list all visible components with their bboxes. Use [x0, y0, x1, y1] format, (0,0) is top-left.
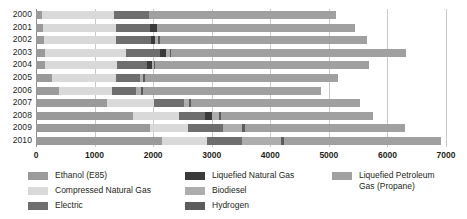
bar-segment[interactable]: [36, 124, 150, 132]
bar-segment[interactable]: [145, 74, 337, 82]
x-axis-tick-label: 3000: [202, 150, 221, 160]
legend-swatch: [28, 202, 48, 210]
bar-segment[interactable]: [52, 74, 115, 82]
x-axis-tick-label: 5000: [319, 150, 338, 160]
legend-item[interactable]: Biodiesel: [185, 185, 294, 199]
bar-segment[interactable]: [36, 99, 107, 107]
legend-item[interactable]: Compressed Natural Gas: [28, 185, 151, 199]
bar-segment[interactable]: [116, 24, 150, 32]
bar-segment[interactable]: [36, 61, 45, 69]
bar-segment[interactable]: [223, 124, 242, 132]
bar-row[interactable]: [36, 124, 405, 132]
legend-label: Liquefied Petroleum Gas (Propane): [359, 170, 435, 191]
bar-row[interactable]: [36, 99, 360, 107]
bar-segment[interactable]: [45, 49, 126, 57]
bar-segment[interactable]: [44, 36, 116, 44]
bar-segment[interactable]: [126, 49, 160, 57]
legend-swatch: [185, 202, 205, 210]
plot-area: [36, 9, 446, 147]
y-axis-tick-label: 2010: [0, 135, 32, 145]
grid-line: [446, 9, 447, 147]
bar-segment[interactable]: [45, 61, 117, 69]
bar-segment[interactable]: [133, 112, 179, 120]
chart-title: [0, 0, 467, 7]
y-axis-tick-label: 2009: [0, 122, 32, 132]
bar-segment[interactable]: [149, 11, 336, 19]
y-axis-tick-label: 2006: [0, 85, 32, 95]
legend-label: Compressed Natural Gas: [55, 185, 151, 196]
bar-segment[interactable]: [117, 61, 146, 69]
bar-row[interactable]: [36, 49, 406, 57]
bar-segment[interactable]: [160, 36, 368, 44]
bar-segment[interactable]: [43, 24, 116, 32]
bar-segment[interactable]: [59, 87, 112, 95]
bar-segment[interactable]: [36, 112, 133, 120]
bar-segment[interactable]: [221, 112, 373, 120]
bar-segment[interactable]: [162, 137, 207, 145]
x-axis-tick-label: 2000: [144, 150, 163, 160]
bar-segment[interactable]: [112, 87, 135, 95]
legend-label: Electric: [55, 200, 83, 211]
legend-item[interactable]: Ethanol (E85): [28, 170, 151, 184]
legend-label: Hydrogen: [212, 200, 249, 211]
bar-segment[interactable]: [157, 24, 355, 32]
bar-segment[interactable]: [36, 49, 45, 57]
x-axis-tick-label: 6000: [378, 150, 397, 160]
bar-segment[interactable]: [114, 11, 149, 19]
bar-segment[interactable]: [150, 124, 188, 132]
legend-swatch: [28, 172, 48, 180]
y-axis-tick-label: 2007: [0, 97, 32, 107]
legend-swatch: [185, 187, 205, 195]
legend-column: Liquefied Natural GasBiodieselHydrogen: [185, 170, 294, 215]
chart-legend: Ethanol (E85)Compressed Natural GasElect…: [28, 170, 460, 214]
bar-segment[interactable]: [143, 87, 322, 95]
bar-segment[interactable]: [155, 61, 368, 69]
bar-segment[interactable]: [116, 74, 141, 82]
legend-label: Biodiesel: [212, 185, 247, 196]
bar-segment[interactable]: [36, 24, 43, 32]
x-axis-tick-label: 4000: [261, 150, 280, 160]
legend-item[interactable]: Liquefied Petroleum Gas (Propane): [332, 170, 435, 196]
legend-swatch: [28, 187, 48, 195]
bar-row[interactable]: [36, 61, 369, 69]
y-axis-tick-label: 2003: [0, 47, 32, 57]
y-axis-tick-label: 2005: [0, 72, 32, 82]
bar-row[interactable]: [36, 36, 367, 44]
bar-row[interactable]: [36, 137, 441, 145]
x-axis-tick-label: 0: [34, 150, 39, 160]
bar-segment[interactable]: [171, 49, 405, 57]
bar-segment[interactable]: [212, 112, 219, 120]
bar-row[interactable]: [36, 87, 321, 95]
bar-segment[interactable]: [284, 137, 440, 145]
bar-segment[interactable]: [36, 36, 44, 44]
bar-row[interactable]: [36, 112, 373, 120]
bar-segment[interactable]: [179, 112, 205, 120]
bar-segment[interactable]: [242, 137, 281, 145]
legend-item[interactable]: Liquefied Natural Gas: [185, 170, 294, 184]
x-axis-tick-label: 7000: [437, 150, 456, 160]
bar-row[interactable]: [36, 11, 336, 19]
legend-swatch: [185, 172, 205, 180]
bar-segment[interactable]: [188, 124, 223, 132]
legend-label: Ethanol (E85): [55, 170, 107, 181]
bar-segment[interactable]: [207, 137, 242, 145]
bar-segment[interactable]: [107, 99, 154, 107]
legend-item[interactable]: Hydrogen: [185, 200, 294, 214]
x-axis-tick-label: 1000: [85, 150, 104, 160]
legend-column: Ethanol (E85)Compressed Natural GasElect…: [28, 170, 151, 215]
bar-segment[interactable]: [42, 11, 115, 19]
bar-row[interactable]: [36, 74, 338, 82]
y-axis-tick-label: 2000: [0, 9, 32, 19]
bar-segment[interactable]: [116, 36, 151, 44]
bar-segment[interactable]: [191, 99, 360, 107]
bar-segment[interactable]: [245, 124, 405, 132]
legend-swatch: [332, 172, 352, 180]
bar-segment[interactable]: [36, 74, 52, 82]
legend-item[interactable]: Electric: [28, 200, 151, 214]
bar-segment[interactable]: [36, 137, 162, 145]
y-axis-tick-label: 2001: [0, 22, 32, 32]
legend-label: Liquefied Natural Gas: [212, 170, 294, 181]
bar-row[interactable]: [36, 24, 355, 32]
bar-segment[interactable]: [154, 99, 184, 107]
bar-segment[interactable]: [36, 87, 59, 95]
